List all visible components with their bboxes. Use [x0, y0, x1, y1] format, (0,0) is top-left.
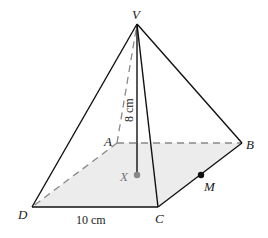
pyramid-svg: V A B C D X M 8 cm 10 cm: [0, 0, 268, 238]
base-edge-dimension: 10 cm: [76, 213, 106, 227]
label-D: D: [17, 207, 28, 222]
pyramid-diagram: V A B C D X M 8 cm 10 cm: [0, 0, 268, 238]
edge-VB: [137, 24, 242, 143]
point-M: [198, 172, 204, 178]
height-dimension: 8 cm: [122, 98, 136, 122]
label-V: V: [132, 7, 142, 22]
label-A: A: [103, 134, 112, 149]
label-X: X: [119, 169, 129, 184]
point-X: [134, 172, 140, 178]
label-B: B: [246, 137, 254, 152]
label-M: M: [203, 179, 216, 194]
label-C: C: [155, 211, 164, 226]
